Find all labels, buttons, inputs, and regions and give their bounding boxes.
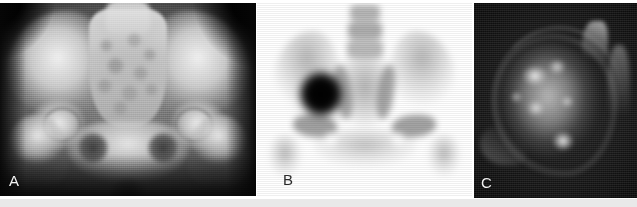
figure-root: A B [0,0,637,207]
panel-b-bone-scintigraphy[interactable]: B [257,3,472,196]
panel-c-mri[interactable]: C [474,3,637,199]
panel-label-b: B [283,172,294,187]
panel-label-a: A [9,173,20,188]
panel-a-radiograph[interactable]: A [0,3,256,196]
radiograph-film-grain [0,3,256,196]
mri-image-noise [474,3,637,199]
panel-label-c: C [481,175,492,190]
scintigraphy-noise [257,3,472,196]
figure-bottom-strip [0,198,637,207]
